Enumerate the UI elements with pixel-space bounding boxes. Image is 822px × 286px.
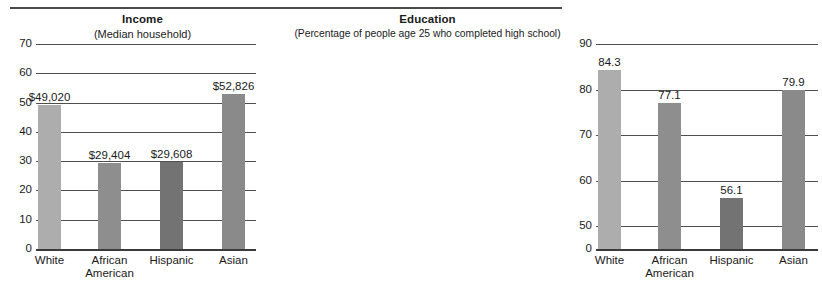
axis-baseline: [596, 249, 818, 251]
chart-subtitle-education: (Percentage of people age 25 who complet…: [285, 28, 570, 39]
x-axis-category-label: Asian: [192, 254, 276, 267]
y-axis-tick-label: 10: [2, 214, 32, 226]
bar-value-label: $29,608: [132, 148, 212, 160]
bar-value-label: 77.1: [630, 89, 710, 101]
axis-baseline: [36, 249, 256, 251]
y-axis-tick-label: 60: [2, 67, 32, 79]
chart-title-education: Education: [285, 13, 570, 25]
bar-value-label: 79.9: [754, 76, 822, 88]
plot-area-education: 0506070809084.3White77.1African American…: [596, 44, 818, 249]
chart-title-income: Income: [0, 13, 285, 25]
bar: [222, 94, 245, 249]
bar-value-label: $52,826: [194, 80, 274, 92]
chart-panel-education: Education (Percentage of people age 25 w…: [285, 0, 570, 286]
bar: [38, 105, 61, 249]
y-axis-tick-label: 0: [2, 243, 32, 255]
bar-value-label: $49,020: [10, 91, 90, 103]
y-axis-tick-label: 70: [2, 38, 32, 50]
gridline: [36, 73, 256, 74]
y-axis-tick-label: 90: [562, 38, 592, 50]
y-axis-tick-label: 0: [562, 243, 592, 255]
gridline: [596, 44, 818, 45]
bar: [720, 198, 743, 249]
bar-value-label: 84.3: [570, 56, 650, 68]
y-axis-tick-label: 80: [562, 84, 592, 96]
y-axis-tick-label: 50: [562, 220, 592, 232]
chart-panel-income: Income (Median household) 01020304050607…: [0, 0, 285, 286]
bar: [782, 90, 805, 249]
y-axis-tick-label: 20: [2, 184, 32, 196]
bar: [160, 162, 183, 249]
chart-subtitle-income: (Median household): [0, 28, 285, 40]
gridline: [36, 44, 256, 45]
bar: [98, 163, 121, 249]
y-axis-tick-label: 40: [2, 126, 32, 138]
plot-area-income: 010203040506070$49,020White$29,404Africa…: [36, 44, 256, 249]
y-axis-tick-label: 70: [562, 129, 592, 141]
y-axis-tick-label: 60: [562, 175, 592, 187]
y-axis-tick-label: 30: [2, 155, 32, 167]
bar: [658, 103, 681, 249]
bar-value-label: 56.1: [692, 184, 772, 196]
bar: [598, 70, 621, 249]
x-axis-category-label: Asian: [752, 254, 822, 267]
